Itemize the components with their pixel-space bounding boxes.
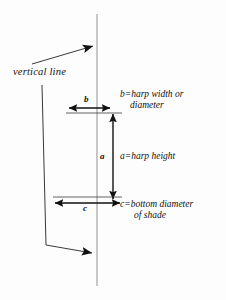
a-definition-label: a=harp height: [120, 151, 175, 162]
vertical-line-label: vertical line: [13, 66, 66, 78]
a-variable-label: a: [100, 151, 105, 161]
b-definition-line2: diameter: [120, 100, 183, 111]
c-definition-line1: c=bottom diameter: [120, 199, 193, 209]
a-definition-text: a=harp height: [120, 151, 175, 161]
b-definition-line1: b=harp width or: [120, 89, 183, 99]
upper-leader-line: [32, 46, 93, 64]
c-variable-label: c: [83, 203, 87, 213]
harp-measurement-diagram: vertical line b a c b=harp width or diam…: [0, 0, 226, 300]
b-definition-label: b=harp width or diameter: [120, 89, 183, 111]
lower-leader-line: [42, 85, 92, 253]
diagram-canvas: [0, 0, 226, 300]
c-definition-line2: of shade: [120, 210, 193, 221]
c-definition-label: c=bottom diameter of shade: [120, 199, 193, 221]
b-variable-label: b: [84, 94, 89, 104]
